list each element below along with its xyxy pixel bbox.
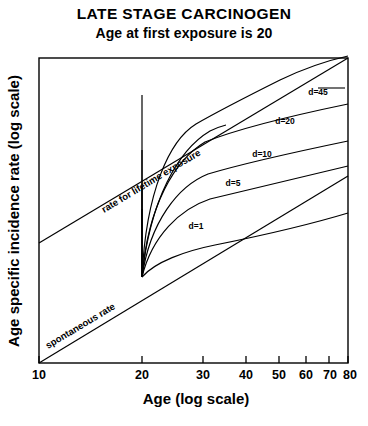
x-axis-title: Age (log scale) <box>143 390 250 407</box>
x-tick-label-70: 70 <box>323 368 337 382</box>
series-envelope <box>142 125 226 277</box>
curve-label-d20: d=20 <box>275 116 295 126</box>
series-spontaneous-rate <box>39 176 348 363</box>
x-tick-label-40: 40 <box>239 368 253 382</box>
x-tick-label-20: 20 <box>135 368 149 382</box>
x-tick-label-50: 50 <box>272 368 286 382</box>
x-axis-ticks <box>39 356 348 363</box>
x-tick-label-80: 80 <box>343 368 357 382</box>
curve-label-d45: d=45 <box>308 87 328 97</box>
figure-container: LATE STAGE CARCINOGEN Age at first expos… <box>0 0 368 426</box>
x-tick-label-30: 30 <box>196 368 210 382</box>
x-tick-label-10: 10 <box>32 368 46 382</box>
curve-label-d5: d=5 <box>226 178 241 188</box>
annotation-spontaneous-rate: spontaneous rate <box>43 301 117 351</box>
chart-svg: 10 20 30 40 50 60 70 80 Age (log scale) … <box>0 0 368 426</box>
x-axis-tick-labels: 10 20 30 40 50 60 70 80 <box>32 368 357 382</box>
x-tick-label-60: 60 <box>299 368 313 382</box>
curve-label-d1: d=1 <box>189 221 204 231</box>
y-axis-title: Age specific incidence rate (log scale) <box>5 75 22 347</box>
curve-label-d10: d=10 <box>252 149 272 159</box>
